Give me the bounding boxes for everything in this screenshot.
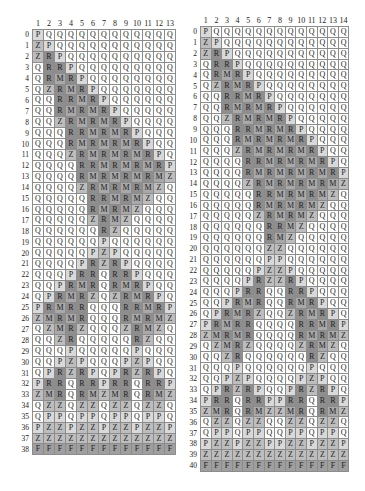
grid-cell: Z [121, 324, 132, 335]
grid-cell: Q [55, 160, 66, 171]
row-header: 37 [18, 433, 33, 444]
grid-cell: Q [275, 308, 286, 319]
grid-cell: F [55, 444, 66, 455]
grid-cell: Q [306, 254, 317, 265]
grid-cell: M [317, 319, 328, 330]
grid-cell: R [88, 379, 99, 390]
grid-cell: Q [317, 363, 328, 374]
grid-cell: Q [253, 70, 264, 81]
grid-cell: Q [222, 265, 233, 276]
grid-cell: P [99, 95, 110, 106]
grid-cell: Z [275, 265, 286, 276]
grid-cell: Z [296, 222, 307, 233]
row-header: 13 [186, 167, 201, 178]
grid-cell: Z [143, 400, 154, 411]
grid-cell: R [285, 395, 296, 406]
grid-row: 8QQZRMRMRPQQQQ [18, 117, 176, 128]
column-header: 8 [275, 15, 286, 27]
grid-cell: R [222, 92, 233, 103]
grid-cell: F [253, 460, 264, 471]
row-header: 39 [186, 449, 201, 460]
grid-cell: M [110, 389, 121, 400]
grid-cell: Q [121, 95, 132, 106]
grid-cell: Q [165, 259, 176, 270]
grid-cell: Q [338, 102, 349, 113]
grid-cell: M [232, 308, 243, 319]
grid-cell: P [55, 357, 66, 368]
grid-cell: R [243, 81, 254, 92]
grid-cell: Q [243, 48, 254, 59]
grid-cell: R [243, 287, 254, 298]
grid-cell: Q [306, 27, 317, 38]
grid-cell: R [253, 157, 264, 168]
grid-cell: F [285, 460, 296, 471]
grid-cell: F [154, 444, 165, 455]
grid-cell: Q [165, 357, 176, 368]
grid-cell: Q [132, 259, 143, 270]
grid-row: 17QQQQQZRMRMZQQQ [186, 211, 349, 222]
grid-cell: Q [264, 27, 275, 38]
grid-cell: P [132, 346, 143, 357]
column-header: 11 [306, 15, 317, 27]
grid-cell: Z [154, 324, 165, 335]
grid-cell: R [99, 215, 110, 226]
grid-cell: M [232, 81, 243, 92]
grid-cell: R [99, 193, 110, 204]
grid-cell: P [110, 106, 121, 117]
row-header: 28 [186, 330, 201, 341]
grid-cell: P [132, 422, 143, 433]
row-header: 7 [186, 102, 201, 113]
grid-cell: Q [121, 40, 132, 51]
grid-cell: Q [44, 259, 55, 270]
grid-cell: Q [211, 124, 222, 135]
row-header: 8 [186, 113, 201, 124]
grid-cell: Z [285, 417, 296, 428]
grid-cell: Z [211, 449, 222, 460]
row-header: 30 [186, 352, 201, 363]
grid-cell: Z [317, 439, 328, 450]
grid-cell: F [88, 444, 99, 455]
grid-cell: R [264, 189, 275, 200]
grid-cell: Z [243, 178, 254, 189]
grid-cell: Q [338, 254, 349, 265]
grid-cell: R [275, 178, 286, 189]
grid-cell: F [201, 460, 212, 471]
grid-cell: R [77, 389, 88, 400]
row-header: 2 [186, 48, 201, 59]
grid-cell: Z [232, 146, 243, 157]
grid-cell: P [88, 411, 99, 422]
grid-cell: Q [165, 226, 176, 237]
grid-cell: R [253, 135, 264, 146]
grid-cell: Q [201, 178, 212, 189]
grid-cell: Q [143, 84, 154, 95]
grid-cell: Z [132, 357, 143, 368]
grid-cell: M [88, 171, 99, 182]
grid-cell: Q [338, 384, 349, 395]
column-header: 3 [55, 18, 66, 30]
grid-cell: R [55, 62, 66, 73]
grid-cell: M [285, 222, 296, 233]
grid-cell: Z [296, 449, 307, 460]
grid-cell: Q [33, 237, 44, 248]
grid-cell: Z [110, 226, 121, 237]
grid-cell: Z [110, 433, 121, 444]
grid-cell: R [211, 59, 222, 70]
grid-cell: Q [211, 178, 222, 189]
grid-cell: Q [165, 30, 176, 41]
grid-cell: P [243, 276, 254, 287]
grid-cell: Q [211, 265, 222, 276]
grid-cell: R [306, 189, 317, 200]
grid-cell: Z [165, 389, 176, 400]
grid-cell: Q [328, 233, 339, 244]
grid-cell: Q [33, 95, 44, 106]
grid-row: 25PRMRRQQQRRMRP [18, 302, 176, 313]
grid-cell: Q [154, 193, 165, 204]
grid-cell: R [110, 160, 121, 171]
grid-cell: Q [132, 73, 143, 84]
grid-cell: R [143, 313, 154, 324]
grid-cell: Q [296, 254, 307, 265]
row-header: 38 [186, 439, 201, 450]
grid-cell: M [296, 167, 307, 178]
grid-cell: R [88, 139, 99, 150]
grid-cell: M [99, 117, 110, 128]
